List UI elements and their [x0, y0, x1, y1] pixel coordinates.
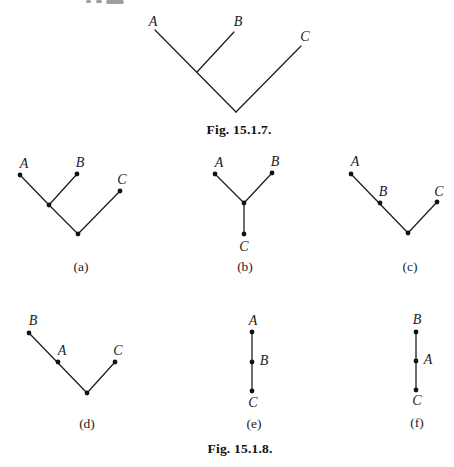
panel-tag-c: (c)	[403, 260, 418, 274]
node-label-a: A	[20, 157, 29, 171]
panel-e-tree	[250, 330, 255, 394]
panel-a-tree	[18, 172, 123, 237]
node-label-c: C	[239, 240, 248, 254]
panel-b-tree	[213, 171, 275, 237]
node-label-a: A	[58, 344, 67, 358]
node-label-a: A	[215, 156, 224, 170]
figure-caption-15-1-8: Fig. 15.1.8.	[207, 442, 272, 456]
node-label-b: B	[234, 15, 243, 29]
node-label-b: B	[29, 314, 38, 328]
book-page: A B C Fig. 15.1.7. A B C (a) A B C (b) A…	[0, 0, 454, 467]
node-label-a: A	[149, 15, 158, 29]
panel-c-tree	[349, 172, 440, 236]
node-label-c: C	[434, 185, 443, 199]
panel-d-tree	[27, 331, 118, 396]
panel-tag-e: (e)	[247, 417, 262, 431]
node-label-b: B	[271, 155, 280, 169]
node-label-b: B	[76, 156, 85, 170]
panel-tag-f: (f)	[410, 416, 424, 430]
tree-fig-15-1-7	[155, 30, 301, 112]
node-label-a: A	[351, 155, 360, 169]
node-label-c: C	[117, 173, 126, 187]
node-label-c: C	[300, 30, 309, 44]
panel-tag-b: (b)	[237, 260, 253, 274]
node-label-a: A	[424, 353, 433, 367]
node-label-c: C	[113, 344, 122, 358]
figure-caption-15-1-7: Fig. 15.1.7.	[206, 123, 271, 137]
node-label-b: B	[379, 185, 388, 199]
node-label-b: B	[413, 313, 422, 327]
node-label-a: A	[249, 314, 258, 328]
panel-tag-d: (d)	[79, 417, 95, 431]
panel-tag-a: (a)	[74, 260, 89, 274]
node-label-c: C	[248, 396, 257, 410]
node-label-c: C	[412, 394, 421, 408]
figure-linework	[0, 0, 454, 467]
node-label-b: B	[260, 354, 269, 368]
panel-f-tree	[414, 330, 419, 393]
